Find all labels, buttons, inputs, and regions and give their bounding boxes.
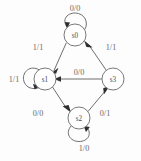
transition-label-s0-s1: 1/1	[33, 43, 43, 52]
edge-s3-to-s1[interactable]	[54, 76, 102, 82]
state-node-s3[interactable]: s3	[102, 68, 124, 90]
state-diagram-canvas: s0 s1 s2 s3 0/0 1/1 1/0 1/1 1/1 0/0 0/0 …	[0, 0, 141, 161]
state-node-s3-label: s3	[110, 76, 117, 84]
edge-s3-to-s0[interactable]	[84, 41, 106, 71]
state-node-s2-label: s2	[76, 115, 83, 123]
transition-label-s3-s1: 0/0	[74, 68, 84, 77]
transition-label-s1-s2: 0/0	[33, 109, 43, 118]
state-node-s0[interactable]: s0	[64, 24, 86, 46]
edge-s3-to-s0-arrowhead	[84, 41, 92, 48]
edge-s0-to-s1[interactable]	[50, 43, 67, 75]
edge-s3-to-s0-path	[89, 45, 107, 71]
transition-label-s0-self: 0/0	[70, 4, 80, 13]
state-node-s1[interactable]: s1	[34, 68, 56, 90]
edge-s0-to-s1-path	[54, 43, 67, 71]
transition-label-s2-self: 1/0	[79, 144, 89, 153]
edge-s1-to-s2[interactable]	[53, 87, 72, 112]
transition-label-s2-s3: 0/1	[100, 109, 110, 118]
transition-label-s1-self: 1/1	[9, 75, 19, 84]
state-diagram: s0 s1 s2 s3 0/0 1/1 1/0 1/1 1/1 0/0 0/0 …	[0, 0, 141, 161]
state-node-s0-label: s0	[72, 32, 79, 40]
transition-label-s3-s0: 1/1	[106, 43, 116, 52]
edge-s1-to-s2-path	[53, 87, 67, 109]
state-node-s2[interactable]: s2	[68, 107, 90, 129]
state-node-s1-label: s1	[42, 76, 49, 84]
